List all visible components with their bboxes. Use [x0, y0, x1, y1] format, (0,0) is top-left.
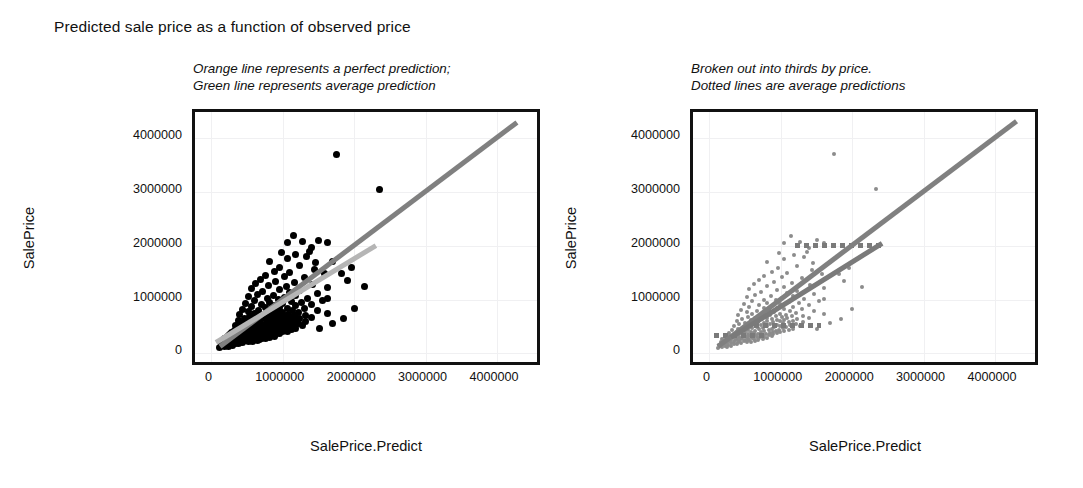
scatter-point: [344, 277, 351, 284]
scatter-point: [822, 286, 826, 290]
scatter-point: [788, 309, 792, 313]
figure-root: Predicted sale price as a function of ob…: [0, 0, 1083, 488]
scatter-point: [770, 270, 774, 274]
x-axis-tick-label: 3000000: [398, 370, 447, 384]
panel-right-yticks: 01000000200000030000004000000: [588, 109, 680, 365]
scatter-point: [794, 311, 798, 315]
scatter-point: [351, 305, 358, 312]
gridline-vertical: [497, 112, 498, 362]
scatter-point: [745, 340, 749, 344]
panel-left-ylabel: SalePrice: [21, 188, 37, 288]
gridline-vertical: [852, 112, 853, 362]
panel-right-subtitle-line1: Broken out into thirds by price.: [691, 61, 872, 76]
panel-right-xlabel: SalePrice.Predict: [705, 438, 1025, 454]
scatter-point: [276, 286, 283, 293]
scatter-point: [769, 294, 773, 298]
panel-left-xticks: 01000000200000030000004000000: [192, 370, 540, 390]
scatter-point: [340, 315, 347, 322]
gridline-horizontal: [195, 246, 537, 247]
panel-left-xlabel: SalePrice.Predict: [206, 438, 526, 454]
scatter-point: [776, 266, 780, 270]
scatter-point: [791, 305, 795, 309]
x-axis-tick-label: 0: [703, 370, 710, 384]
x-axis-tick-label: 2000000: [825, 370, 874, 384]
scatter-point: [278, 249, 285, 256]
scatter-point: [361, 283, 368, 290]
scatter-point: [860, 285, 864, 289]
scatter-point: [765, 260, 769, 264]
panel-left-subtitle-line1: Orange line represents a perfect predict…: [193, 61, 451, 76]
scatter-point: [281, 273, 288, 280]
panel-right-subtitle: Broken out into thirds by price. Dotted …: [691, 60, 905, 94]
panel-right-plot-area: [690, 109, 1038, 365]
scatter-point: [789, 234, 793, 238]
scatter-point: [874, 187, 878, 191]
scatter-point: [284, 255, 291, 262]
scatter-point: [248, 285, 255, 292]
scatter-point: [324, 295, 331, 302]
y-axis-tick-label: 2000000: [631, 236, 680, 250]
scatter-point: [777, 251, 781, 255]
gridline-horizontal: [195, 353, 537, 354]
scatter-point: [762, 274, 766, 278]
scatter-point: [312, 259, 319, 266]
scatter-point: [292, 251, 299, 258]
scatter-point: [828, 321, 832, 325]
scatter-point: [376, 186, 383, 193]
x-axis-tick-label: 1000000: [753, 370, 802, 384]
scatter-point: [757, 303, 761, 307]
panel-left-yticks: 01000000200000030000004000000: [90, 109, 182, 365]
scatter-point: [790, 281, 794, 285]
scatter-point: [299, 322, 306, 329]
scatter-point: [797, 301, 801, 305]
gridline-vertical: [354, 112, 355, 362]
scatter-point: [765, 284, 769, 288]
gridline-horizontal: [693, 192, 1035, 193]
scatter-point: [839, 317, 843, 321]
scatter-point: [782, 257, 786, 261]
x-axis-tick-label: 2000000: [327, 370, 376, 384]
scatter-point: [299, 238, 306, 245]
y-axis-tick-label: 0: [175, 343, 182, 357]
panel-right: Broken out into thirds by price. Dotted …: [545, 0, 1083, 488]
scatter-point: [747, 287, 751, 291]
gridline-horizontal: [693, 300, 1035, 301]
scatter-point: [753, 339, 757, 343]
gridline-vertical: [924, 112, 925, 362]
scatter-point: [308, 314, 315, 321]
x-axis-tick-label: 3000000: [896, 370, 945, 384]
gridline-vertical: [995, 112, 996, 362]
scatter-point: [338, 270, 345, 277]
y-axis-tick-label: 4000000: [631, 128, 680, 142]
scatter-point: [795, 317, 799, 321]
scatter-point: [324, 310, 331, 317]
y-axis-tick-label: 1000000: [133, 290, 182, 304]
scatter-point: [752, 282, 756, 286]
panel-left-subtitle-line2: Green line represents average prediction: [193, 77, 451, 94]
scatter-point: [316, 325, 323, 332]
x-axis-tick-label: 1000000: [255, 370, 304, 384]
scatter-point: [324, 284, 331, 291]
scatter-point: [782, 285, 786, 289]
y-axis-tick-label: 4000000: [133, 128, 182, 142]
x-axis-tick-label: 0: [205, 370, 212, 384]
scatter-point: [812, 292, 816, 296]
gridline-vertical: [426, 112, 427, 362]
scatter-point: [800, 307, 804, 311]
scatter-point: [850, 307, 854, 311]
scatter-point: [795, 264, 799, 268]
scatter-point: [805, 250, 809, 254]
scatter-point: [780, 275, 784, 279]
scatter-point: [807, 316, 811, 320]
scatter-point: [811, 261, 815, 265]
scatter-point: [265, 282, 272, 289]
x-axis-tick-label: 4000000: [968, 370, 1017, 384]
scatter-point: [753, 293, 757, 297]
scatter-point: [772, 280, 776, 284]
scatter-point: [787, 328, 791, 332]
scatter-point: [333, 151, 340, 158]
panel-right-subtitle-line2: Dotted lines are average predictions: [691, 77, 905, 94]
y-axis-tick-label: 3000000: [631, 182, 680, 196]
y-axis-tick-label: 3000000: [133, 182, 182, 196]
scatter-point: [745, 295, 749, 299]
